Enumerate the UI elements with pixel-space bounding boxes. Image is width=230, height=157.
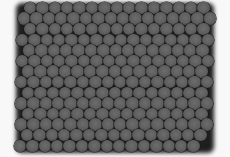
sphere [150,140,163,153]
sphere [26,140,39,153]
sphere [187,140,200,153]
sphere-packing-image [0,0,230,157]
sphere [125,140,138,153]
sphere [101,140,114,153]
sphere [163,140,176,153]
sphere [39,140,52,153]
sphere [63,140,76,153]
sphere [88,140,101,153]
